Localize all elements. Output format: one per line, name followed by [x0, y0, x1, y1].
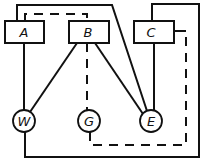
wire-a-g [25, 14, 87, 21]
wire-g-c [90, 31, 186, 145]
node-w: W [13, 110, 35, 132]
node-e: E [140, 110, 162, 132]
box-b-label: B [84, 25, 93, 40]
node-w-label: W [18, 114, 32, 129]
wiring-diagram: A B C W G E [0, 0, 202, 162]
box-c-label: C [146, 25, 156, 40]
box-c: C [134, 21, 174, 43]
box-a: A [5, 21, 44, 43]
node-e-label: E [147, 114, 156, 129]
box-b: B [69, 21, 109, 43]
wire-b-w [30, 43, 77, 112]
box-a-label: A [19, 25, 29, 40]
node-g: G [78, 110, 100, 132]
node-g-label: G [84, 114, 94, 129]
